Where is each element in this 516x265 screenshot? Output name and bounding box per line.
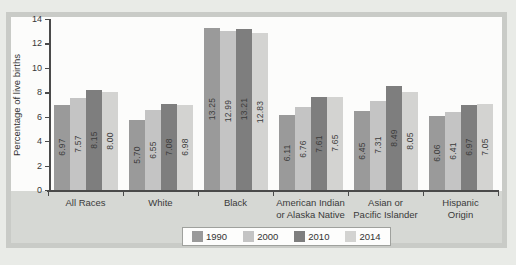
legend-swatch (294, 231, 305, 242)
x-category-label: HispanicOrigin (406, 197, 516, 220)
bar-value-label: 6.97 (56, 125, 68, 169)
x-tick-mark (198, 191, 199, 196)
bar-value-label: 8.05 (404, 119, 416, 163)
bar-value-label: 7.05 (479, 125, 491, 169)
y-tick-label: 6 (22, 112, 42, 122)
bar-value-label: 12.83 (254, 90, 266, 134)
y-tick-label: 12 (22, 38, 42, 48)
y-tick-mark (45, 68, 49, 69)
legend-swatch (192, 231, 203, 242)
bar-value-label: 8.15 (88, 118, 100, 162)
bar-value-label: 7.61 (313, 122, 325, 166)
x-category-label-line: Origin (406, 209, 516, 221)
bar-value-label: 5.70 (131, 133, 143, 177)
y-tick-label: 8 (22, 87, 42, 97)
legend: 1990200020102014 (182, 227, 391, 246)
legend-item: 2010 (294, 231, 329, 242)
bar-value-label: 6.98 (179, 125, 191, 169)
bar-value-label: 7.57 (72, 122, 84, 166)
legend-label: 1990 (206, 231, 227, 242)
bar-value-label: 6.41 (447, 129, 459, 173)
bar-value-label: 8.00 (104, 119, 116, 163)
legend-label: 2014 (359, 231, 380, 242)
bar-value-label: 12.99 (222, 89, 234, 133)
y-tick-label: 0 (22, 185, 42, 195)
y-tick-label: 4 (22, 136, 42, 146)
y-tick-mark (45, 141, 49, 142)
chart-stage: Percentage of live births 19902000201020… (0, 0, 516, 265)
legend-swatch (345, 231, 356, 242)
legend-label: 2000 (257, 231, 278, 242)
y-tick-mark (45, 19, 49, 20)
bar-value-label: 6.76 (297, 127, 309, 171)
bar-value-label: 6.55 (147, 128, 159, 172)
bar-value-label: 7.31 (372, 123, 384, 167)
y-axis-line (49, 19, 51, 192)
y-tick-label: 2 (22, 161, 42, 171)
x-tick-mark (273, 191, 274, 196)
bar-value-label: 13.25 (206, 87, 218, 131)
bar-value-label: 13.21 (238, 87, 250, 131)
y-tick-label: 10 (22, 63, 42, 73)
y-tick-label: 14 (22, 14, 42, 24)
legend-swatch (243, 231, 254, 242)
bar-value-label: 6.97 (463, 125, 475, 169)
x-tick-mark (48, 191, 49, 196)
y-tick-mark (45, 92, 49, 93)
legend-item: 1990 (192, 231, 227, 242)
bar-value-label: 6.11 (281, 131, 293, 175)
x-tick-mark (498, 191, 499, 196)
bar-value-label: 7.08 (163, 125, 175, 169)
bar-value-label: 6.45 (356, 129, 368, 173)
x-category-label-line: Hispanic (406, 197, 516, 209)
legend-item: 2014 (345, 231, 380, 242)
legend-label: 2010 (308, 231, 329, 242)
x-tick-mark (423, 191, 424, 196)
bar-value-label: 7.65 (329, 121, 341, 165)
y-tick-mark (45, 43, 49, 44)
x-tick-mark (348, 191, 349, 196)
legend-item: 2000 (243, 231, 278, 242)
y-tick-mark (45, 166, 49, 167)
bar-value-label: 6.06 (431, 131, 443, 175)
bar-value-label: 8.49 (388, 116, 400, 160)
y-tick-mark (45, 117, 49, 118)
x-tick-mark (123, 191, 124, 196)
